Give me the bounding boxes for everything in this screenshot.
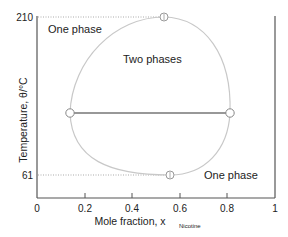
x-tick-label-0.6: 0.6 xyxy=(173,203,187,214)
y-tick-label-61: 61 xyxy=(22,170,34,181)
lower-critical-point-marker xyxy=(166,171,174,179)
x-tick-label-0.4: 0.4 xyxy=(125,203,139,214)
region-label-two-phases: Two phases xyxy=(123,53,182,65)
region-label-lower-right: One phase xyxy=(204,169,258,181)
x-tick-label-0.8: 0.8 xyxy=(220,203,234,214)
x-tick-label-0.2: 0.2 xyxy=(78,203,92,214)
x-axis-label-subscript: Nicotine xyxy=(179,223,201,229)
y-axis-label: Temperature, θ/°C xyxy=(17,77,29,163)
tie-line-right-marker xyxy=(226,109,234,117)
y-tick-label-210: 210 xyxy=(16,12,33,23)
phase-boundary-curve xyxy=(70,17,230,175)
x-axis-label-text: Mole fraction, x xyxy=(94,215,166,227)
x-tick-label-1: 1 xyxy=(272,203,278,214)
x-ticks xyxy=(85,193,227,198)
tie-line-left-marker xyxy=(66,109,74,117)
x-tick-label-0: 0 xyxy=(34,203,40,214)
region-label-upper-left: One phase xyxy=(48,23,102,35)
upper-critical-point-marker xyxy=(160,13,168,21)
x-axis-label: Mole fraction, x xyxy=(94,215,166,227)
phase-diagram: 210 61 0 0.2 0.4 0.6 0.8 1 Mole fraction… xyxy=(0,0,288,237)
